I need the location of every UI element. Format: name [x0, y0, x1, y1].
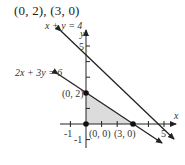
- x-tick-label-neg1: -1: [64, 128, 72, 139]
- point-0-2: [83, 90, 89, 96]
- x-tick-label-5: 5: [161, 128, 166, 139]
- label-line-2: 2x + 3y = 6: [15, 67, 62, 78]
- point-0-0: [83, 121, 89, 127]
- label-line-1: x + y = 4: [44, 20, 82, 31]
- label-point-3-0: (3, 0): [114, 128, 136, 140]
- label-point-0-2: (0, 2): [62, 88, 84, 100]
- point-3-0: [130, 121, 136, 127]
- x-axis-label: x: [173, 110, 179, 121]
- y-tick-label-neg1: -1: [74, 134, 82, 145]
- feasible-region-graph: x + y = 4 2x + 3y = 6 y x 5 -1 -1 5 (0, …: [0, 0, 185, 165]
- y-axis-label: y: [79, 28, 85, 39]
- y-tick-label-5: 5: [79, 41, 84, 52]
- label-point-0-0: (0, 0): [89, 128, 111, 140]
